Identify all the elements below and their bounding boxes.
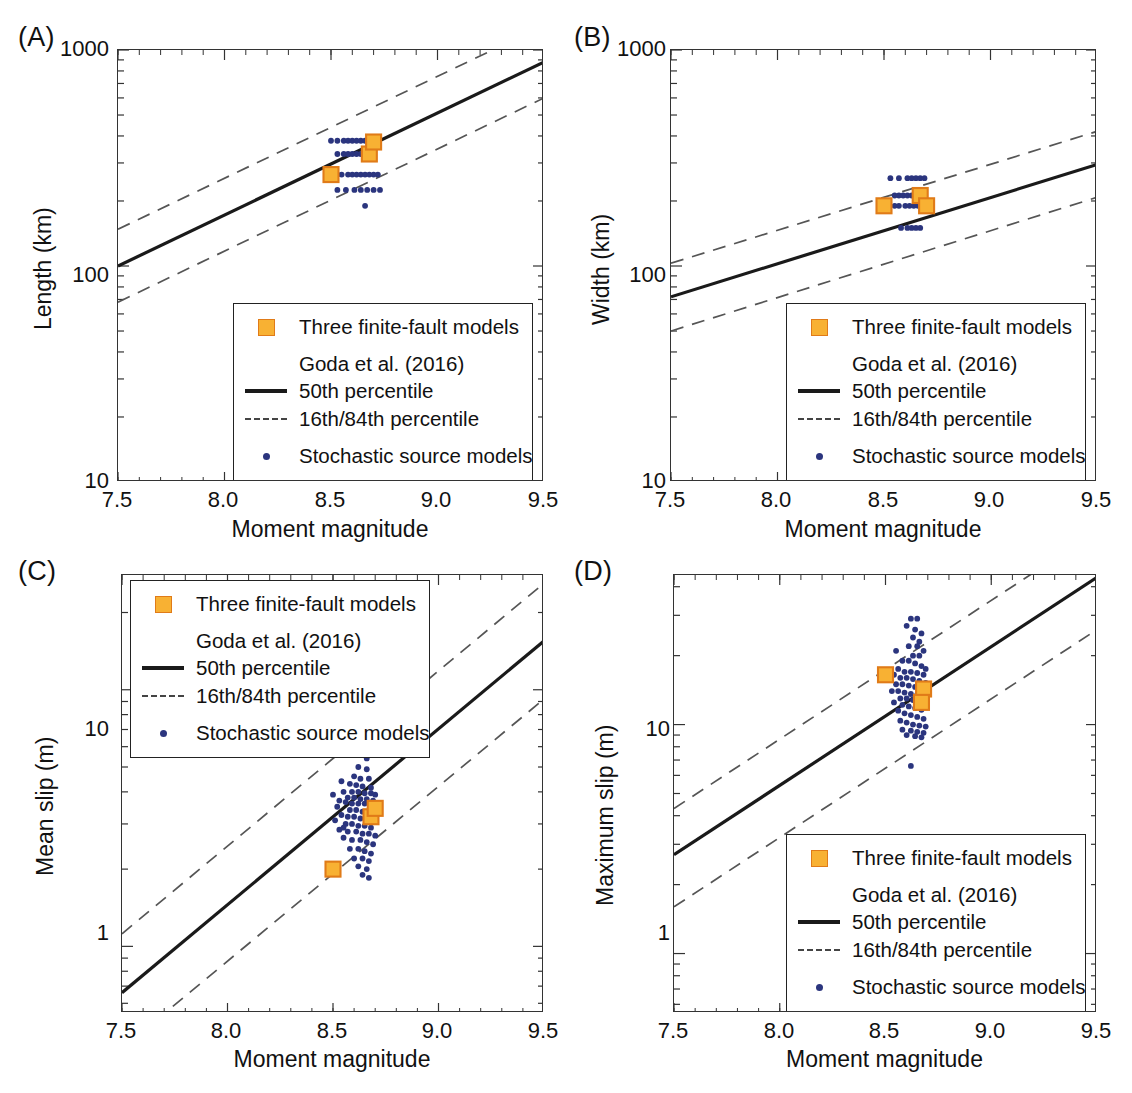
solid-line-swatch-icon	[141, 657, 185, 679]
panel-b-xtick-9.5: 9.5	[1066, 487, 1126, 513]
panel-a: (A) 1000 100 10 Length (km) Three finite…	[0, 0, 566, 546]
legend-row-median: 50th percentile	[141, 654, 417, 682]
panel-c-xtick-8.5: 8.5	[302, 1018, 362, 1044]
legend-row-percentile: 16th/84th percentile	[797, 936, 1073, 964]
panel-d-xtick-7.5: 7.5	[643, 1018, 703, 1044]
dashed-line-swatch-icon	[797, 408, 841, 430]
legend-label-source: Goda et al. (2016)	[797, 881, 1073, 908]
panel-b-x-axis-title: Moment magnitude	[670, 516, 1096, 543]
panel-c-xtick-7.5: 7.5	[91, 1018, 151, 1044]
legend-label-median: 50th percentile	[852, 381, 986, 402]
orange-square-marker-icon	[244, 316, 288, 338]
panel-a-xtick-8.0: 8.0	[193, 487, 253, 513]
panel-a-x-axis-title: Moment magnitude	[117, 516, 543, 543]
blue-dot-marker-icon	[141, 722, 185, 744]
panel-c-label: (C)	[18, 556, 56, 587]
solid-line-swatch-icon	[797, 911, 841, 933]
legend-row-median: 50th percentile	[797, 377, 1073, 405]
legend-label-source: Goda et al. (2016)	[797, 350, 1073, 377]
panel-b-ytick-1000: 1000	[602, 36, 666, 62]
panel-d-legend: Three finite-fault models Goda et al. (2…	[786, 834, 1086, 1012]
legend-row-median: 50th percentile	[244, 377, 520, 405]
legend-row-stochastic: Stochastic source models	[244, 442, 520, 470]
legend-row-finite-fault: Three finite-fault models	[244, 313, 520, 341]
orange-square-marker-icon	[797, 316, 841, 338]
legend-spacer	[797, 872, 1073, 881]
panel-d-y-axis-title: Maximum slip (m)	[592, 725, 619, 906]
legend-spacer	[797, 964, 1073, 973]
panel-d-x-axis-title: Moment magnitude	[673, 1046, 1096, 1073]
panel-b-trendlines	[671, 131, 1096, 331]
legend-row-percentile: 16th/84th percentile	[797, 405, 1073, 433]
panel-b-legend: Three finite-fault models Goda et al. (2…	[786, 303, 1086, 481]
legend-label-source: Goda et al. (2016)	[141, 627, 417, 654]
legend-row-stochastic: Stochastic source models	[141, 719, 417, 747]
panel-c-xtick-9.5: 9.5	[513, 1018, 573, 1044]
legend-spacer	[244, 341, 520, 350]
panel-c: (C) 10 1 Mean slip (m) Three finite-faul…	[0, 546, 566, 1066]
legend-row-finite-fault: Three finite-fault models	[141, 590, 417, 618]
panel-a-ytick-1000: 1000	[45, 36, 109, 62]
legend-label-stochastic: Stochastic source models	[196, 723, 430, 744]
legend-spacer	[141, 710, 417, 719]
legend-row-finite-fault: Three finite-fault models	[797, 844, 1073, 872]
legend-label-finite-fault: Three finite-fault models	[299, 317, 519, 338]
panel-d-xtick-9.5: 9.5	[1066, 1018, 1126, 1044]
legend-row-stochastic: Stochastic source models	[797, 973, 1073, 1001]
panel-c-legend: Three finite-fault models Goda et al. (2…	[130, 580, 430, 758]
panel-d-xtick-8.5: 8.5	[854, 1018, 914, 1044]
panel-b-xtick-7.5: 7.5	[640, 487, 700, 513]
legend-row-finite-fault: Three finite-fault models	[797, 313, 1073, 341]
legend-label-finite-fault: Three finite-fault models	[852, 317, 1072, 338]
legend-label-percentile: 16th/84th percentile	[852, 409, 1032, 430]
legend-label-source: Goda et al. (2016)	[244, 350, 520, 377]
blue-dot-marker-icon	[244, 445, 288, 467]
legend-label-finite-fault: Three finite-fault models	[852, 848, 1072, 869]
legend-label-median: 50th percentile	[196, 658, 330, 679]
panel-d: (D) 10 1 Maximum slip (m) Three finite-f…	[566, 546, 1132, 1066]
legend-label-percentile: 16th/84th percentile	[852, 940, 1032, 961]
legend-spacer	[141, 618, 417, 627]
blue-dot-marker-icon	[797, 976, 841, 998]
legend-row-percentile: 16th/84th percentile	[244, 405, 520, 433]
legend-label-percentile: 16th/84th percentile	[196, 686, 376, 707]
panel-b-xtick-8.5: 8.5	[853, 487, 913, 513]
panel-d-plot-area: Three finite-fault models Goda et al. (2…	[673, 574, 1096, 1012]
panel-a-plot-area: Three finite-fault models Goda et al. (2…	[117, 49, 543, 481]
panel-a-xtick-8.5: 8.5	[300, 487, 360, 513]
panel-a-xtick-9.5: 9.5	[513, 487, 573, 513]
legend-spacer	[797, 433, 1073, 442]
panel-b-y-axis-title: Width (km)	[588, 214, 615, 325]
panel-a-xtick-9.0: 9.0	[406, 487, 466, 513]
legend-label-stochastic: Stochastic source models	[852, 446, 1086, 467]
panel-b: (B) 1000 100 10 Width (km) Three finite-…	[566, 0, 1132, 546]
panel-d-xtick-9.0: 9.0	[960, 1018, 1020, 1044]
dashed-line-swatch-icon	[797, 939, 841, 961]
panel-c-ytick-1: 1	[47, 920, 109, 946]
panel-b-finite-fault-markers	[877, 188, 935, 213]
panel-c-y-axis-title: Mean slip (m)	[32, 737, 59, 876]
legend-row-stochastic: Stochastic source models	[797, 442, 1073, 470]
panel-c-xtick-9.0: 9.0	[407, 1018, 467, 1044]
panel-b-xtick-8.0: 8.0	[746, 487, 806, 513]
dashed-line-swatch-icon	[244, 408, 288, 430]
legend-row-percentile: 16th/84th percentile	[141, 682, 417, 710]
figure-root: (A) 1000 100 10 Length (km) Three finite…	[0, 0, 1132, 1093]
orange-square-marker-icon	[141, 593, 185, 615]
legend-label-median: 50th percentile	[852, 912, 986, 933]
panel-a-y-axis-title: Length (km)	[30, 207, 57, 330]
legend-spacer	[244, 433, 520, 442]
solid-line-swatch-icon	[797, 380, 841, 402]
legend-label-percentile: 16th/84th percentile	[299, 409, 479, 430]
legend-label-stochastic: Stochastic source models	[299, 446, 533, 467]
panel-a-xtick-7.5: 7.5	[87, 487, 147, 513]
panel-b-plot-area: Three finite-fault models Goda et al. (2…	[670, 49, 1096, 481]
legend-label-median: 50th percentile	[299, 381, 433, 402]
panel-c-plot-area: Three finite-fault models Goda et al. (2…	[121, 574, 543, 1012]
blue-dot-marker-icon	[797, 445, 841, 467]
legend-row-median: 50th percentile	[797, 908, 1073, 936]
orange-square-marker-icon	[797, 847, 841, 869]
legend-label-stochastic: Stochastic source models	[852, 977, 1086, 998]
panel-d-label: (D)	[574, 556, 612, 587]
panel-c-x-axis-title: Moment magnitude	[121, 1046, 543, 1073]
